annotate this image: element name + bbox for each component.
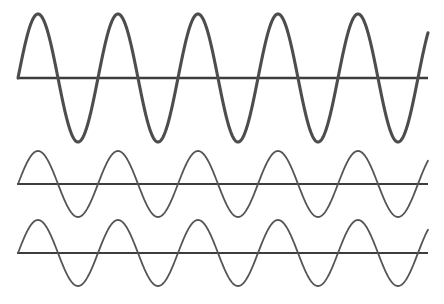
figure-background — [0, 0, 444, 304]
waveform-diagram — [0, 0, 444, 304]
waveform-figure — [0, 0, 444, 304]
